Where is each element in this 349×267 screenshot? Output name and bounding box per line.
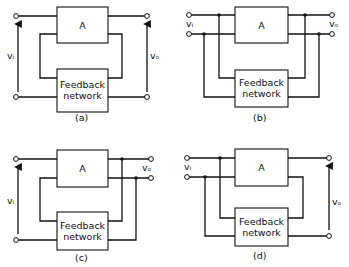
feedback-line1: Feedback <box>60 220 105 231</box>
feedback-topologies-figure: A Feedbacknetwork vᵢ vₒ (a) A Feedbackne… <box>0 0 349 267</box>
circuit-wiring <box>0 0 349 267</box>
panel-c-amplifier-label: A <box>57 163 108 174</box>
feedback-line2: network <box>63 231 102 242</box>
feedback-line2: network <box>63 90 102 101</box>
panel-a-amplifier-label: A <box>57 20 108 31</box>
panel-b-caption: (b) <box>253 113 266 123</box>
panel-d-vout-label: vₒ <box>332 197 342 207</box>
panel-a-feedback-label: Feedbacknetwork <box>57 79 108 101</box>
panel-a-caption: (a) <box>75 113 88 123</box>
feedback-line1: Feedback <box>239 77 284 88</box>
panel-c-vin-label: vᵢ <box>7 196 14 206</box>
feedback-line2: network <box>242 88 281 99</box>
feedback-line1: Feedback <box>239 216 284 227</box>
panel-c-caption: (c) <box>75 253 88 263</box>
feedback-line2: network <box>242 227 281 238</box>
panel-b-vout-label: vₒ <box>329 19 339 29</box>
panel-c-vout-label: vₒ <box>142 163 152 173</box>
panel-b-feedback-label: Feedbacknetwork <box>235 77 288 99</box>
panel-d-caption: (d) <box>253 251 266 261</box>
panel-a-vin-label: vᵢ <box>7 51 14 61</box>
panel-b-vin-label: vᵢ <box>186 19 193 29</box>
panel-a-vout-label: vₒ <box>150 51 160 61</box>
panel-b-amplifier-label: A <box>235 20 288 31</box>
panel-d-feedback-label: Feedbacknetwork <box>235 216 288 238</box>
feedback-line1: Feedback <box>60 79 105 90</box>
panel-d-amplifier-label: A <box>235 162 288 173</box>
panel-d-vin-label: vᵢ <box>184 162 191 172</box>
panel-c-feedback-label: Feedbacknetwork <box>57 220 108 242</box>
